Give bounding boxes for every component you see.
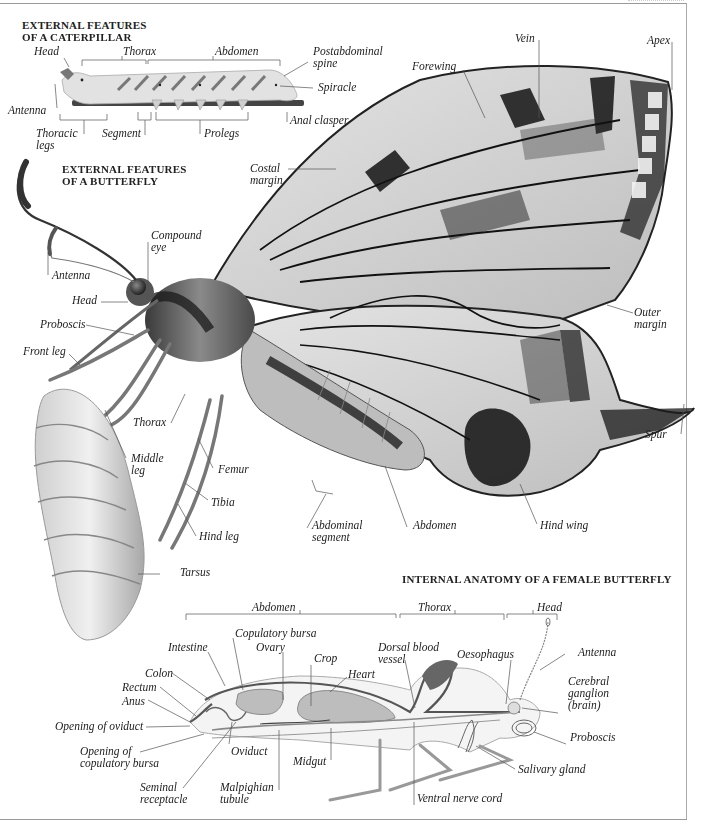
label-seminal-receptacle-2: receptacle <box>140 793 187 805</box>
label-anal-clasper: Anal clasper <box>290 114 348 126</box>
butterfly-title-line1: EXTERNAL FEATURES <box>62 163 187 175</box>
label-apex: Apex <box>647 34 670 46</box>
label-ventral-nerve-cord: Ventral nerve cord <box>417 792 502 804</box>
label-femur: Femur <box>218 463 249 475</box>
label-prolegs: Prolegs <box>204 127 239 139</box>
label-oviduct: Oviduct <box>231 745 267 757</box>
label-abdominal-segment-2: segment <box>312 531 350 543</box>
label-copulatory-bursa: Copulatory bursa <box>235 627 316 639</box>
label-cerebral-ganglion-2: ganglion <box>568 687 609 699</box>
caterpillar-title-line1: EXTERNAL FEATURES <box>22 19 147 31</box>
butterfly-drawing <box>18 66 694 640</box>
caterpillar-drawing <box>55 56 313 135</box>
label-costal-margin-2: margin <box>250 174 283 186</box>
label-outer-margin-1: Outer <box>634 306 661 318</box>
label-opening-of-oviduct: Opening of oviduct <box>55 720 143 732</box>
label-colon: Colon <box>145 667 173 679</box>
label-dorsal-blood-vessel-1: Dorsal blood <box>378 641 439 653</box>
label-spur: Spur <box>645 428 667 440</box>
label-midgut: Midgut <box>293 755 326 767</box>
butterfly-title-line2: OF A BUTTERFLY <box>62 175 158 187</box>
label-segment: Segment <box>102 127 141 139</box>
label-compound-eye-1: Compound <box>151 229 201 241</box>
label-ovary: Ovary <box>256 641 285 653</box>
caterpillar-title-line2: OF A CATERPILLAR <box>22 31 132 43</box>
label-caterpillar-thorax: Thorax <box>123 45 156 57</box>
label-outer-margin-2: margin <box>634 318 667 330</box>
label-caterpillar-abdomen: Abdomen <box>215 45 258 57</box>
label-thoracic-legs-1: Thoracic <box>36 127 78 139</box>
label-anus: Anus <box>122 695 145 707</box>
label-spiracle: Spiracle <box>318 81 356 93</box>
region-abdomen: Abdomen <box>252 601 295 613</box>
label-oesophagus: Oesophagus <box>457 648 514 660</box>
label-opening-copulatory-bursa-2: copulatory bursa <box>80 757 159 769</box>
label-internal-proboscis: Proboscis <box>570 731 616 743</box>
label-front-leg: Front leg <box>23 345 66 357</box>
label-butterfly-abdomen: Abdomen <box>413 519 456 531</box>
label-vein: Vein <box>515 32 535 44</box>
label-crop: Crop <box>314 652 337 664</box>
label-butterfly-antenna: Antenna <box>52 269 90 281</box>
label-middle-leg-2: leg <box>131 464 145 476</box>
label-thoracic-legs-2: legs <box>36 139 55 151</box>
label-intestine: Intestine <box>168 641 208 653</box>
anatomy-plate: EXTERNAL FEATURES OF A CATERPILLAR Head … <box>0 0 703 834</box>
label-malpighian-tubule-1: Malpighian <box>220 781 274 793</box>
label-tibia: Tibia <box>211 496 235 508</box>
label-rectum: Rectum <box>122 681 156 693</box>
label-salivary-gland: Salivary gland <box>518 763 585 775</box>
label-middle-leg-1: Middle <box>131 452 164 464</box>
label-tarsus: Tarsus <box>180 566 210 578</box>
label-compound-eye-2: eye <box>151 241 166 253</box>
label-opening-copulatory-bursa-1: Opening of <box>80 745 131 757</box>
region-head: Head <box>537 601 562 613</box>
label-butterfly-head: Head <box>72 294 97 306</box>
label-postabdominal-spine-2: spine <box>313 57 337 69</box>
label-cerebral-ganglion-1: Cerebral <box>568 675 609 687</box>
label-caterpillar-head: Head <box>34 45 59 57</box>
label-malpighian-tubule-2: tubule <box>220 793 249 805</box>
label-heart: Heart <box>348 668 375 680</box>
internal-anatomy-drawing <box>140 610 566 805</box>
label-seminal-receptacle-1: Seminal <box>140 781 177 793</box>
label-internal-antenna: Antenna <box>578 646 616 658</box>
region-thorax: Thorax <box>418 601 451 613</box>
label-forewing: Forewing <box>412 60 456 72</box>
label-hind-leg: Hind leg <box>199 530 239 542</box>
label-cerebral-ganglion-3: (brain) <box>568 699 601 711</box>
label-dorsal-blood-vessel-2: vessel <box>378 653 405 665</box>
label-abdominal-segment-1: Abdominal <box>312 519 362 531</box>
label-costal-margin-1: Costal <box>250 162 280 174</box>
label-caterpillar-antenna: Antenna <box>8 104 46 116</box>
label-postabdominal-spine-1: Postabdominal <box>313 45 383 57</box>
label-hind-wing: Hind wing <box>540 519 588 531</box>
label-butterfly-thorax: Thorax <box>133 416 166 428</box>
internal-anatomy-title: INTERNAL ANATOMY OF A FEMALE BUTTERFLY <box>402 573 672 585</box>
label-proboscis: Proboscis <box>40 318 86 330</box>
